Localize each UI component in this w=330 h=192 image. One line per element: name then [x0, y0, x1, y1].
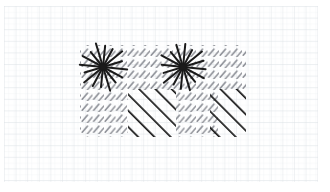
diagram-canvas: [0, 0, 330, 192]
region-light-hatch-bottom-left: [80, 91, 128, 137]
graph-paper-svg: [0, 0, 330, 192]
starburst-core: [180, 64, 186, 70]
starburst-core: [100, 64, 106, 70]
region-dark-hatch-bottom-right: [210, 89, 246, 137]
region-dark-hatch-bottom-center: [128, 89, 176, 137]
